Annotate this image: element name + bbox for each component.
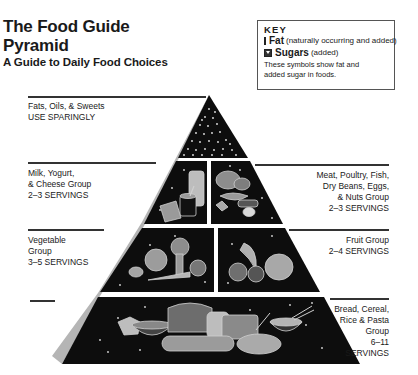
- bread-loaf-dark: [168, 303, 212, 332]
- vegetable-group-name-1: Vegetable: [28, 235, 88, 246]
- label-bread: Bread, Cereal, Rice & Pasta Group 6–11 S…: [334, 304, 389, 359]
- vegetable-servings: 3–5 SERVINGS: [28, 257, 88, 268]
- meat-group-name-3: & Nuts Group: [316, 192, 389, 203]
- bread-group-name-2: Rice & Pasta: [334, 315, 389, 326]
- bread-group-name-1: Bread, Cereal,: [334, 304, 389, 315]
- grapes: [265, 254, 293, 280]
- milk-servings: 2–3 SERVINGS: [28, 190, 91, 201]
- egg: [243, 208, 255, 217]
- rule-bread-left: [30, 300, 55, 302]
- rule-bread-right: [330, 298, 389, 300]
- meat-servings: 2–3 SERVINGS: [316, 203, 389, 214]
- milk-group-name-1: Milk, Yogurt,: [28, 168, 91, 179]
- bread-servings: SERVINGS: [334, 348, 389, 359]
- rule-milk: [28, 162, 156, 164]
- fats-servings: USE SPARINGLY: [28, 112, 105, 123]
- pasta-plate: [237, 334, 281, 354]
- rule-fruit: [289, 229, 389, 231]
- rule-fats: [28, 96, 206, 98]
- yogurt-cup: [180, 196, 196, 216]
- bread-group-name-3: Group: [334, 326, 389, 337]
- label-milk: Milk, Yogurt, & Cheese Group 2–3 SERVING…: [28, 168, 91, 201]
- label-vegetable: Vegetable Group 3–5 SERVINGS: [28, 235, 88, 268]
- meat-group-name-2: Dry Beans, Eggs,: [316, 181, 389, 192]
- broccoli: [171, 238, 189, 256]
- apple-2: [248, 266, 264, 282]
- bread-servings-range: 6–11: [334, 337, 389, 348]
- vegetable-group-name-2: Group: [28, 246, 88, 257]
- baguette: [162, 336, 234, 351]
- meat-group-name-1: Meat, Poultry, Fish,: [316, 170, 389, 181]
- potato: [129, 267, 143, 277]
- rule-meat: [255, 164, 389, 166]
- fruit-servings: 2–4 SERVINGS: [329, 246, 389, 257]
- label-fats: Fats, Oils, & Sweets USE SPARINGLY: [28, 101, 105, 123]
- fats-group-name: Fats, Oils, & Sweets: [28, 101, 105, 112]
- lettuce: [145, 249, 167, 271]
- label-fruit: Fruit Group 2–4 SERVINGS: [329, 235, 389, 257]
- label-meat: Meat, Poultry, Fish, Dry Beans, Eggs, & …: [316, 170, 389, 214]
- fruit-group-name: Fruit Group: [329, 235, 389, 246]
- milk-group-name-2: & Cheese Group: [28, 179, 91, 190]
- apple: [229, 263, 247, 281]
- tomato: [190, 260, 206, 276]
- rule-vegetable: [28, 229, 104, 231]
